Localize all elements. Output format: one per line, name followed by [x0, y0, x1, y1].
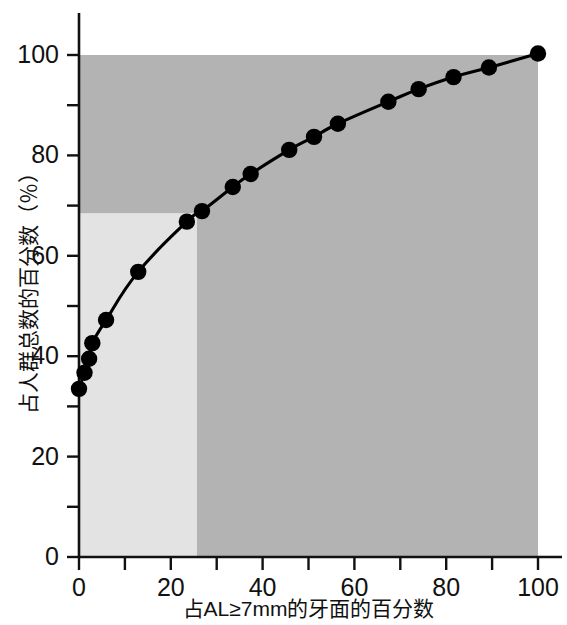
data-point	[84, 335, 100, 351]
data-point	[194, 203, 210, 219]
data-point	[330, 116, 346, 132]
data-point	[281, 142, 297, 158]
plot-canvas	[0, 0, 567, 625]
data-point	[410, 81, 426, 97]
data-point	[81, 351, 97, 367]
y-tick-label: 100	[0, 42, 59, 67]
data-point	[71, 381, 87, 397]
x-axis-ticks	[79, 557, 538, 570]
data-point	[130, 264, 146, 280]
y-axis-ticks	[67, 55, 79, 557]
data-point	[481, 59, 497, 75]
data-point	[380, 93, 396, 109]
chart-figure: 020406080100 020406080100 占人群总数的百分数（％） 占…	[0, 0, 567, 625]
data-point	[98, 312, 114, 328]
shaded-regions	[79, 55, 538, 557]
x-axis-title: 占AL≥7mm的牙面的百分数	[79, 592, 538, 622]
data-point	[242, 166, 258, 182]
data-point	[306, 129, 322, 145]
data-point	[179, 213, 195, 229]
data-point	[76, 365, 92, 381]
data-point	[530, 45, 546, 61]
y-tick-label: 0	[0, 544, 59, 569]
y-axis-title: 占人群总数的百分数（％）	[12, 78, 42, 498]
data-point	[445, 69, 461, 85]
data-point	[225, 179, 241, 195]
